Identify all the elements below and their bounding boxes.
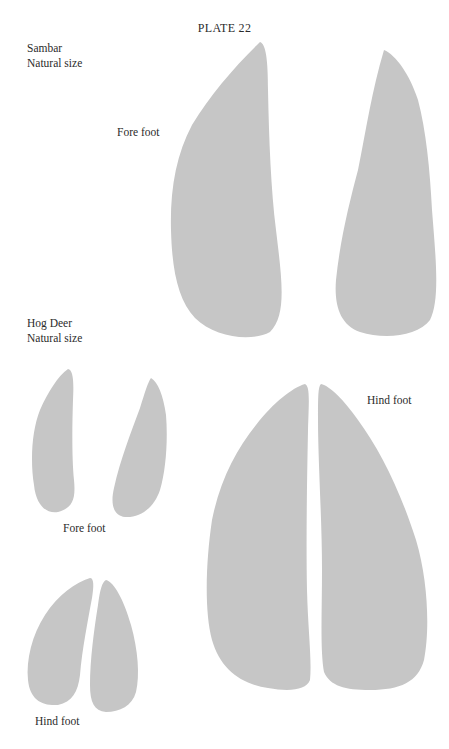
hoof-prints-figure [0, 0, 449, 749]
hogdeer-fore-left-hoof-icon [32, 369, 74, 512]
hogdeer-hind-left-hoof-icon [28, 578, 94, 705]
large-hind-left-hoof-icon [207, 384, 311, 690]
sambar-fore-left-hoof-icon [171, 42, 282, 337]
hogdeer-fore-right-hoof-icon [112, 378, 166, 517]
hogdeer-hind-right-hoof-icon [90, 580, 138, 712]
large-hind-right-hoof-icon [318, 384, 427, 690]
sambar-fore-right-hoof-icon [336, 50, 437, 336]
